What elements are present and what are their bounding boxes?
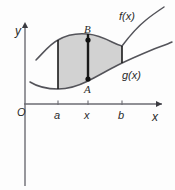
- point-marker-B: [85, 37, 90, 42]
- point-label-B: B: [84, 24, 91, 35]
- tick-label-x: x: [84, 110, 90, 121]
- function-label-f: f(x): [119, 11, 135, 22]
- origin-label: O: [17, 107, 26, 118]
- x-axis-label: x: [152, 111, 158, 123]
- tick-label-a: a: [54, 110, 60, 121]
- y-axis-label: y: [15, 25, 21, 37]
- x-axis-arrowhead-icon: [156, 101, 162, 107]
- function-label-g: g(x): [122, 70, 141, 81]
- tick-label-b: b: [118, 110, 124, 121]
- y-axis-arrowhead-icon: [22, 22, 28, 28]
- point-marker-A: [85, 76, 90, 81]
- point-label-A: A: [84, 84, 91, 95]
- math-figure-area-between-curves: y x O f(x) g(x) a x b A B: [0, 0, 175, 190]
